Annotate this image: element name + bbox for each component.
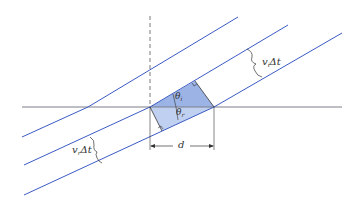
wavefront-2 — [24, 25, 288, 165]
spacing-d-label: d — [178, 139, 184, 150]
theta-incident-label: θi — [175, 91, 182, 102]
d-arrowhead-right — [209, 144, 214, 148]
wavefront-1 — [22, 17, 238, 137]
refracted-distance-label: vrΔt — [72, 144, 92, 156]
d-arrowhead-left — [150, 144, 155, 148]
theta-refracted-label: θr — [176, 107, 184, 118]
incident-distance-label: viΔt — [262, 56, 281, 68]
incident-distance-brace — [247, 49, 262, 77]
refraction-diagram — [0, 0, 363, 208]
